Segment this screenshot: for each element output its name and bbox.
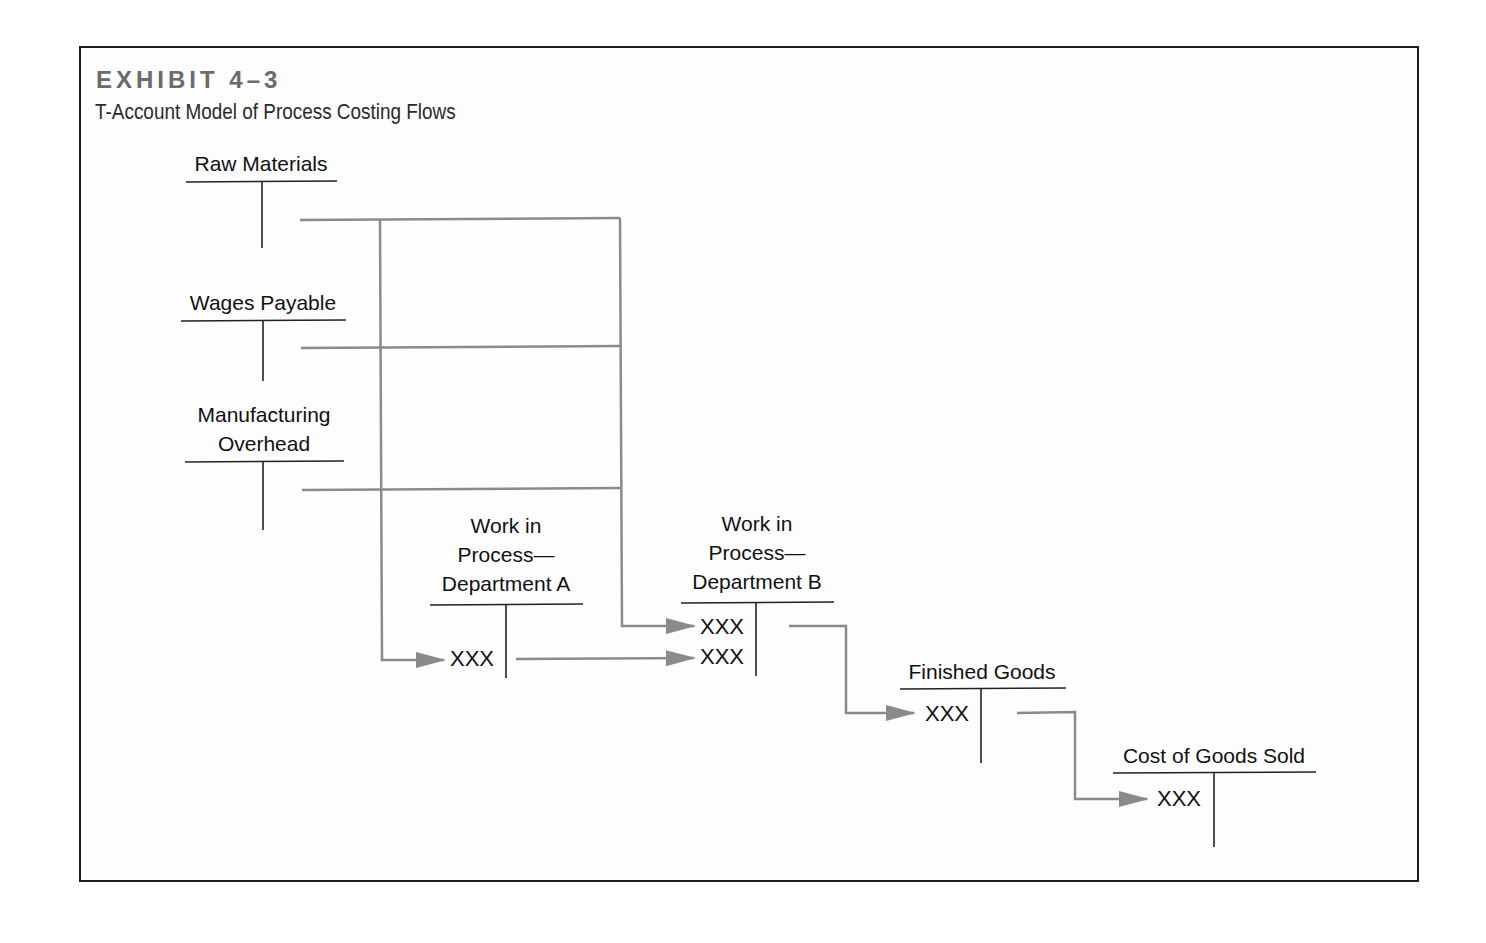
flow-to-wip-b	[620, 218, 694, 626]
t-account-raw-materials	[186, 181, 337, 248]
t-account-finished-goods	[900, 688, 1066, 763]
flow-to-wip-a	[380, 220, 444, 660]
flow-lines	[300, 218, 1147, 799]
flow-overhead	[302, 488, 620, 490]
flow-wip-a-to-wip-b	[516, 658, 694, 659]
t-account-wip-dept-b	[681, 602, 834, 676]
t-account-wip-dept-a	[430, 604, 583, 678]
flow-diagram	[0, 0, 1486, 943]
t-account-wages-payable	[181, 320, 346, 381]
t-accounts	[181, 181, 1316, 847]
flow-raw-materials	[300, 218, 620, 220]
flow-fg-to-cogs	[1017, 712, 1147, 799]
flow-wages-payable	[301, 346, 620, 348]
flow-wip-b-to-fg	[789, 626, 914, 713]
t-account-manufacturing-overhead	[185, 461, 344, 530]
t-account-cost-of-goods-sold	[1113, 772, 1316, 847]
